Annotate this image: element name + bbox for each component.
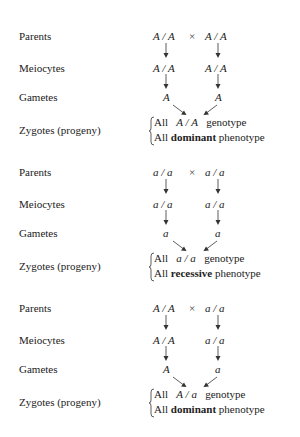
meiocyte-right-genotype: a / a <box>205 334 225 346</box>
zygote-genotype-line: All a / a genotype <box>154 252 244 265</box>
label-parents: Parents <box>19 30 51 42</box>
gamete-right: a <box>215 227 221 239</box>
zygote-genotype: A / A <box>176 116 198 128</box>
label-zygotes: Zygotes (progeny) <box>19 396 101 408</box>
gamete-right: A <box>215 91 222 103</box>
arrow-down-icon <box>163 179 169 195</box>
arrow-down-icon <box>215 210 221 226</box>
arrow-converge-right-icon <box>172 104 188 116</box>
cross-block-1: Parents Meiocytes Gametes Zygotes (proge… <box>0 30 300 166</box>
arrow-converge-left-icon <box>202 376 218 388</box>
zygote-phenotype-line: All recessive phenotype <box>154 267 261 280</box>
arrow-converge-left-icon <box>202 240 218 252</box>
arrow-down-icon <box>215 43 221 59</box>
parent-right-genotype: a / a <box>205 166 225 178</box>
zygote-genotype-line: All A / a genotype <box>154 388 245 401</box>
zygote-phenotype-line: All dominant phenotype <box>154 131 265 144</box>
arrow-down-icon <box>163 346 169 362</box>
arrow-converge-right-icon <box>172 240 188 252</box>
zygote-genotype: a / a <box>176 252 196 264</box>
parent-left-genotype: A / A <box>153 302 175 314</box>
arrow-down-icon <box>163 210 169 226</box>
zygote-genotype: A / a <box>176 388 197 400</box>
meiocyte-right-genotype: a / a <box>205 198 225 210</box>
parent-left-genotype: A / A <box>153 30 175 42</box>
arrow-down-icon <box>163 315 169 331</box>
meiocyte-right-genotype: A / A <box>205 62 227 74</box>
cross-symbol: × <box>189 302 195 314</box>
cross-symbol: × <box>189 30 195 42</box>
arrow-down-icon <box>215 315 221 331</box>
label-zygotes: Zygotes (progeny) <box>19 260 101 272</box>
label-parents: Parents <box>19 166 51 178</box>
zygote-phenotype: dominant <box>171 403 216 415</box>
arrow-down-icon <box>215 179 221 195</box>
arrow-converge-right-icon <box>172 376 188 388</box>
label-gametes: Gametes <box>19 363 57 375</box>
cross-symbol: × <box>189 166 195 178</box>
gamete-left: a <box>163 227 169 239</box>
zygote-phenotype-line: All dominant phenotype <box>154 403 265 416</box>
arrow-converge-left-icon <box>202 104 218 116</box>
label-meiocytes: Meiocytes <box>19 334 65 346</box>
parent-right-genotype: a / a <box>205 302 225 314</box>
arrow-down-icon <box>215 346 221 362</box>
meiocyte-left-genotype: A / A <box>153 62 175 74</box>
label-zygotes: Zygotes (progeny) <box>19 124 101 136</box>
meiocyte-left-genotype: a / a <box>153 198 173 210</box>
label-meiocytes: Meiocytes <box>19 62 65 74</box>
gamete-right: a <box>215 363 221 375</box>
gamete-left: A <box>163 363 170 375</box>
meiocyte-left-genotype: A / A <box>153 334 175 346</box>
label-meiocytes: Meiocytes <box>19 198 65 210</box>
label-parents: Parents <box>19 302 51 314</box>
zygote-phenotype: dominant <box>171 131 216 143</box>
parent-right-genotype: A / A <box>205 30 227 42</box>
label-gametes: Gametes <box>19 227 57 239</box>
zygote-phenotype: recessive <box>171 267 212 279</box>
cross-block-3: Parents Meiocytes Gametes Zygotes (proge… <box>0 302 300 437</box>
cross-block-2: Parents Meiocytes Gametes Zygotes (proge… <box>0 166 300 302</box>
zygote-genotype-line: All A / A genotype <box>154 116 247 129</box>
label-gametes: Gametes <box>19 91 57 103</box>
arrow-down-icon <box>163 43 169 59</box>
arrow-down-icon <box>215 74 221 90</box>
parent-left-genotype: a / a <box>153 166 173 178</box>
gamete-left: A <box>163 91 170 103</box>
arrow-down-icon <box>163 74 169 90</box>
